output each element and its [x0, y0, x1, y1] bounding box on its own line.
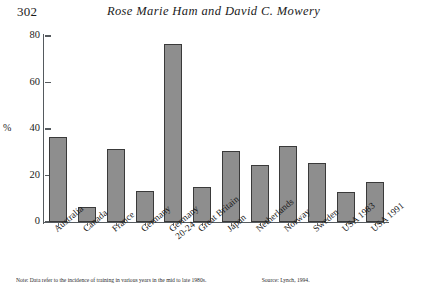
page-header: 302 Rose Marie Ham and David C. Mowery [0, 4, 427, 22]
y-axis-tick-label: 20 [14, 169, 40, 180]
bar [107, 149, 125, 222]
y-axis-tick [45, 35, 51, 36]
y-axis-tick-label: 80 [14, 29, 40, 40]
figure-source: Source: Lynch, 1994. [262, 277, 310, 283]
bar [164, 44, 182, 222]
y-axis-tick-label: 40 [14, 122, 40, 133]
bar-chart-figure: 020406080 % AustraliaCanadaFranceGermany… [0, 26, 427, 287]
y-axis-unit-label: % [3, 122, 17, 133]
y-axis-tick-label: 0 [14, 215, 40, 226]
running-title: Rose Marie Ham and David C. Mowery [0, 4, 427, 19]
figure-note: Note: Data refer to the incidence of tra… [16, 277, 206, 283]
y-axis-tick [45, 128, 51, 129]
bar [49, 137, 67, 222]
y-axis-tick [45, 82, 51, 83]
y-axis-tick-label: 60 [14, 76, 40, 87]
figure-notes: Note: Data refer to the incidence of tra… [16, 277, 416, 283]
bar [251, 165, 269, 222]
